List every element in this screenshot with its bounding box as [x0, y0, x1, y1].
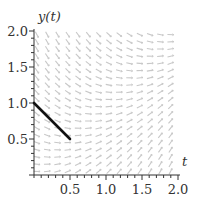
slope-arrow [96, 169, 101, 173]
slope-arrow [137, 140, 141, 145]
slope-arrow [169, 169, 172, 175]
slope-arrow [34, 127, 39, 130]
slope-arrow [86, 32, 90, 37]
slope-arrow [65, 98, 71, 101]
slope-arrow [85, 84, 91, 87]
slope-arrow [66, 54, 70, 59]
slope-arrow [117, 141, 122, 145]
x-tick-label: 1.0 [96, 182, 117, 197]
slope-arrow [158, 147, 162, 152]
slope-arrow [45, 105, 50, 109]
slope-arrow [147, 98, 153, 101]
slope-arrow [86, 163, 91, 166]
slope-arrow [117, 33, 122, 37]
slope-arrow [117, 162, 121, 167]
slope-arrow [35, 68, 39, 73]
slope-arrow [168, 76, 174, 79]
direction-field-plot: 0.51.01.52.00.51.01.52.0 t y(t) [0, 0, 198, 200]
slope-arrow [86, 69, 91, 73]
y-axis-label: y(t) [37, 9, 61, 24]
slope-arrow [106, 47, 111, 51]
slope-arrow [35, 83, 39, 88]
slope-arrow [56, 32, 59, 37]
slope-arrow [65, 83, 70, 87]
slope-arrow [117, 155, 122, 159]
slope-arrow [137, 105, 143, 108]
slope-arrow [127, 148, 132, 152]
slope-arrow [76, 39, 80, 44]
slope-arrow [127, 155, 131, 160]
x-tick-label: 0.5 [60, 182, 81, 197]
slope-arrow [169, 126, 173, 131]
slope-arrow [127, 140, 132, 144]
slope-arrow [56, 46, 60, 51]
slope-arrow [46, 32, 49, 38]
slope-arrow [148, 162, 152, 167]
slope-arrow [45, 54, 49, 59]
slope-arrow [158, 140, 162, 145]
slope-arrow [86, 54, 91, 58]
slope-arrow [116, 47, 122, 50]
slope-arrow [169, 161, 172, 167]
slope-arrow [86, 39, 90, 44]
slope-arrow [76, 32, 80, 37]
slope-arrow [55, 61, 59, 66]
slope-arrow [35, 32, 38, 38]
slope-arrow [75, 83, 80, 86]
slope-arrow [138, 162, 142, 167]
slope-arrow [35, 53, 38, 58]
slope-arrow [158, 119, 163, 124]
slope-arrow [65, 90, 70, 94]
slope-arrow [75, 76, 80, 80]
slope-arrow [65, 68, 70, 72]
slope-arrow [148, 154, 152, 159]
slope-arrow [158, 133, 162, 138]
slope-arrow [168, 97, 173, 101]
slope-arrow [127, 133, 132, 137]
slope-arrow [169, 133, 173, 138]
slope-arrow [106, 155, 111, 159]
slope-arrow [66, 46, 70, 51]
slope-arrow [137, 133, 142, 137]
slope-arrow [35, 75, 39, 80]
slope-arrow [35, 97, 40, 102]
slope-arrow [106, 62, 112, 65]
slope-arrow [159, 154, 163, 159]
slope-arrow [96, 32, 100, 37]
slope-arrow [148, 119, 153, 123]
y-tick-label: 1.5 [7, 60, 28, 75]
slope-arrow [55, 105, 60, 108]
slope-arrow [147, 112, 152, 116]
slope-arrow [76, 54, 80, 59]
slope-arrow [45, 68, 49, 73]
slope-arrow [96, 155, 101, 158]
slope-arrow [107, 32, 112, 36]
slope-arrow [127, 40, 133, 43]
x-tick-label: 2.0 [168, 182, 189, 197]
x-tick-label: 1.5 [132, 182, 153, 197]
slope-arrow [137, 33, 143, 36]
slope-arrow [117, 40, 122, 44]
slope-arrow [76, 69, 81, 73]
y-tick-label: 0.5 [7, 132, 28, 147]
slope-arrow [168, 111, 172, 116]
slope-arrow [45, 46, 48, 51]
slope-arrow [107, 169, 112, 174]
slope-arrow [35, 46, 38, 52]
slope-arrow [106, 55, 111, 58]
slope-arrow [55, 83, 60, 87]
slope-arrow [127, 169, 131, 174]
slope-arrow [86, 170, 91, 174]
slope-arrow [65, 105, 71, 108]
slope-arrow [96, 148, 102, 151]
slope-arrow [76, 61, 81, 65]
slope-arrow [45, 90, 50, 94]
slope-arrow [168, 104, 173, 108]
slope-arrow [137, 119, 142, 123]
slope-arrow [96, 62, 101, 65]
slope-arrow [56, 39, 60, 44]
slope-arrow [86, 61, 91, 65]
slope-arrow [168, 90, 173, 94]
slope-arrow [75, 91, 81, 94]
slope-field [34, 32, 174, 174]
